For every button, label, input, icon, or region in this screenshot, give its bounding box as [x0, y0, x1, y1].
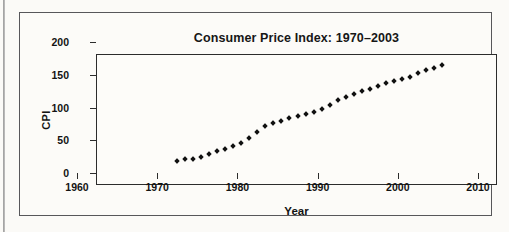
data-point — [279, 118, 285, 124]
scatter-plot-area — [97, 55, 496, 184]
chart-title: Consumer Price Index: 1970–2003 — [96, 31, 497, 45]
data-point — [263, 124, 269, 130]
data-point — [311, 109, 317, 115]
data-point — [247, 136, 253, 142]
x-tick-mark — [318, 173, 319, 179]
x-tick-mark — [478, 173, 479, 179]
y-tick-label: 200 — [20, 36, 69, 48]
data-point — [327, 102, 333, 108]
data-point — [335, 98, 341, 104]
data-point — [375, 83, 381, 89]
y-tick-mark — [90, 108, 96, 109]
x-tick-mark — [237, 173, 238, 179]
data-point — [198, 154, 204, 160]
data-point — [343, 94, 349, 100]
y-tick-label: 100 — [20, 102, 69, 114]
data-point — [190, 156, 196, 162]
x-tick-label: 1970 — [146, 181, 169, 193]
x-tick-label: 1960 — [65, 181, 88, 193]
x-tick-label: 1980 — [226, 181, 249, 193]
data-point — [271, 120, 277, 126]
data-point — [391, 78, 397, 84]
data-point — [399, 76, 405, 82]
y-tick-label: 50 — [20, 134, 69, 146]
x-tick-label: 2000 — [386, 181, 409, 193]
data-point — [319, 106, 325, 112]
data-point — [206, 151, 212, 157]
data-point — [439, 63, 445, 69]
data-point — [174, 158, 180, 164]
x-tick-mark — [398, 173, 399, 179]
data-point — [214, 148, 220, 154]
data-point — [182, 157, 188, 163]
data-point — [230, 143, 236, 149]
data-point — [295, 113, 301, 119]
page-edge-artifact — [3, 0, 5, 232]
data-point — [431, 65, 437, 71]
data-point — [407, 74, 413, 80]
data-point — [255, 129, 261, 135]
data-point — [383, 80, 389, 86]
data-point — [222, 146, 228, 152]
data-point — [287, 115, 293, 121]
x-tick-mark — [77, 173, 78, 179]
y-tick-mark — [90, 173, 96, 174]
y-tick-mark — [90, 42, 96, 43]
x-tick-mark — [157, 173, 158, 179]
data-point — [415, 70, 421, 76]
y-tick-mark — [90, 75, 96, 76]
y-tick-label: 150 — [20, 69, 69, 81]
data-point — [303, 111, 309, 117]
figure-container: Consumer Price Index: 1970–2003 CPI 0501… — [19, 12, 492, 216]
y-tick-mark — [90, 140, 96, 141]
data-point — [367, 86, 373, 92]
plot-frame — [96, 54, 497, 185]
data-point — [239, 140, 245, 146]
x-tick-label: 1990 — [306, 181, 329, 193]
y-tick-label: 0 — [20, 167, 69, 179]
data-point — [359, 89, 365, 95]
data-point — [351, 91, 357, 97]
data-point — [423, 67, 429, 73]
x-tick-label: 2010 — [466, 181, 489, 193]
x-axis-title: Year — [96, 205, 497, 217]
